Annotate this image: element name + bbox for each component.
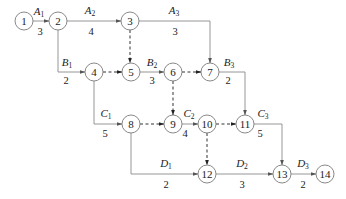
label-D3: D3 bbox=[296, 157, 309, 171]
duration-C1: 5 bbox=[102, 128, 107, 139]
activity-arrows bbox=[33, 21, 316, 174]
node-7: 7 bbox=[201, 63, 219, 81]
node-3: 3 bbox=[121, 12, 139, 30]
node-12: 12 bbox=[198, 165, 216, 183]
duration-A1: 3 bbox=[37, 26, 42, 37]
svg-text:10: 10 bbox=[202, 118, 214, 130]
duration-B1: 2 bbox=[63, 75, 68, 86]
node-1: 1 bbox=[15, 12, 33, 30]
svg-text:6: 6 bbox=[170, 66, 176, 78]
label-A2: A2 bbox=[84, 4, 96, 18]
svg-text:3: 3 bbox=[127, 15, 133, 27]
label-A1: A1 bbox=[33, 5, 45, 19]
svg-text:13: 13 bbox=[277, 168, 289, 180]
nodes: 1 2 3 4 5 6 7 8 9 10 11 12 13 14 bbox=[15, 12, 334, 183]
node-5: 5 bbox=[122, 63, 140, 81]
svg-text:5: 5 bbox=[128, 66, 134, 78]
duration-C3: 5 bbox=[257, 128, 262, 139]
duration-D1: 2 bbox=[163, 179, 168, 190]
dummy-arrows bbox=[103, 30, 236, 165]
label-B2: B2 bbox=[147, 56, 158, 70]
svg-text:7: 7 bbox=[207, 66, 213, 78]
node-4: 4 bbox=[85, 63, 103, 81]
activity-labels: A1 3 A2 4 A3 3 B1 2 B2 3 B3 2 C1 5 C2 4 … bbox=[33, 4, 309, 190]
svg-text:12: 12 bbox=[202, 168, 213, 180]
svg-text:11: 11 bbox=[240, 118, 251, 130]
svg-text:4: 4 bbox=[91, 66, 97, 78]
svg-text:2: 2 bbox=[55, 15, 61, 27]
label-C1: C1 bbox=[100, 107, 111, 121]
node-11: 11 bbox=[236, 115, 254, 133]
duration-A2: 4 bbox=[88, 26, 94, 37]
node-2: 2 bbox=[49, 12, 67, 30]
duration-D3: 2 bbox=[300, 179, 305, 190]
duration-B2: 3 bbox=[149, 75, 154, 86]
svg-text:14: 14 bbox=[320, 168, 332, 180]
network-diagram: 1 2 3 4 5 6 7 8 9 10 11 12 13 14 A1 3 A2… bbox=[0, 0, 346, 199]
node-9: 9 bbox=[164, 115, 182, 133]
duration-B3: 2 bbox=[225, 75, 230, 86]
label-A3: A3 bbox=[168, 4, 180, 18]
node-13: 13 bbox=[273, 165, 291, 183]
duration-D2: 3 bbox=[239, 179, 244, 190]
label-C3: C3 bbox=[257, 107, 268, 121]
label-B1: B1 bbox=[62, 56, 73, 70]
node-6: 6 bbox=[164, 63, 182, 81]
diagram-svg: 1 2 3 4 5 6 7 8 9 10 11 12 13 14 A1 3 A2… bbox=[0, 0, 346, 199]
svg-text:9: 9 bbox=[170, 118, 176, 130]
label-B3: B3 bbox=[224, 56, 235, 70]
arrow-B3 bbox=[219, 72, 245, 115]
duration-C2: 4 bbox=[182, 128, 188, 139]
duration-A3: 3 bbox=[172, 26, 177, 37]
svg-text:1: 1 bbox=[21, 15, 27, 27]
label-D1: D1 bbox=[159, 157, 172, 171]
svg-text:8: 8 bbox=[128, 118, 134, 130]
label-D2: D2 bbox=[235, 157, 248, 171]
node-14: 14 bbox=[316, 165, 334, 183]
node-10: 10 bbox=[198, 115, 216, 133]
node-8: 8 bbox=[122, 115, 140, 133]
label-C2: C2 bbox=[183, 107, 194, 121]
